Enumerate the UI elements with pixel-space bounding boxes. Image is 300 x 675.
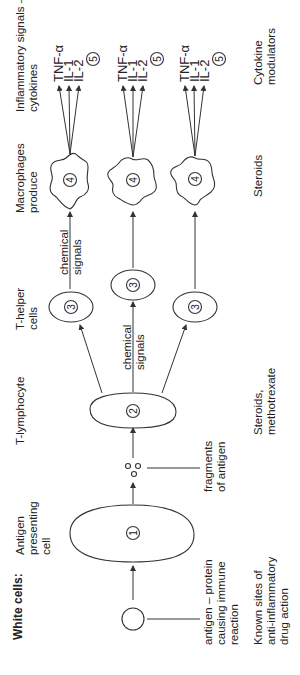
svg-text:4: 4 xyxy=(190,176,201,182)
svg-text:4: 4 xyxy=(65,177,76,183)
cytokine-arrows xyxy=(59,86,204,157)
cytokine-group-1: TNF-α IL-1 IL-2 5 xyxy=(51,44,100,82)
drug-site-cytokine-modulators: Cytokine modulators xyxy=(252,28,277,85)
svg-text:3: 3 xyxy=(128,282,139,288)
macrophage-3: 4 xyxy=(171,157,215,205)
t-helper-cell-1: 3 xyxy=(49,292,93,322)
stage-label-macrophages: Macrophages produce xyxy=(14,140,39,213)
svg-text:3: 3 xyxy=(66,304,77,310)
step-1-number: 1 xyxy=(128,530,139,536)
white-cells-label: White cells: xyxy=(11,573,25,640)
cytokine-group-3: TNF-α IL-1 IL-2 5 xyxy=(177,44,226,82)
immune-response-diagram: White cells: Antigen presenting cell T-l… xyxy=(0,0,300,675)
stage-label-t-lymphocyte: T-lymphocyte xyxy=(14,377,26,445)
svg-text:5: 5 xyxy=(214,56,225,62)
svg-text:IL-2: IL-2 xyxy=(197,60,212,82)
antigen-fragments xyxy=(126,464,141,477)
drug-site-steroids-methotrexate: Steroids, methotrexate xyxy=(252,368,277,435)
t-helper-cell-2: 3 xyxy=(111,270,155,300)
arrow-to-t-helper-1 xyxy=(80,325,102,393)
svg-text:5: 5 xyxy=(152,56,163,62)
svg-text:IL-2: IL-2 xyxy=(135,60,150,82)
antigen-circle xyxy=(122,608,144,630)
macrophage-2: 4 xyxy=(108,158,157,205)
svg-text:4: 4 xyxy=(128,177,139,183)
svg-text:IL-2: IL-2 xyxy=(71,60,86,82)
svg-text:5: 5 xyxy=(88,56,99,62)
t-helper-cell-3: 3 xyxy=(173,292,217,322)
cytokine-group-2: TNF-α IL-1 IL-2 5 xyxy=(115,44,164,82)
antigen-annotation: antigen – protein causing immune reactio… xyxy=(202,556,240,645)
stage-label-apc: Antigen presenting cell xyxy=(14,498,52,555)
fragments-annotation: fragments of antigen xyxy=(202,438,227,492)
stage-label-cytokines: Inflammatory signals – cytokines xyxy=(14,0,39,112)
arrow-to-t-helper-3 xyxy=(162,325,186,393)
drug-site-steroids: Steroids xyxy=(252,155,264,197)
header-row: White cells: Antigen presenting cell T-l… xyxy=(11,0,52,640)
step-2-number: 2 xyxy=(128,408,139,414)
macrophage-1: 4 xyxy=(50,153,88,209)
drug-sites-label: Known sites of anti-inflammatory drug ac… xyxy=(252,554,290,645)
svg-text:3: 3 xyxy=(190,304,201,310)
stage-label-t-helper: T-helper cells xyxy=(14,285,39,330)
